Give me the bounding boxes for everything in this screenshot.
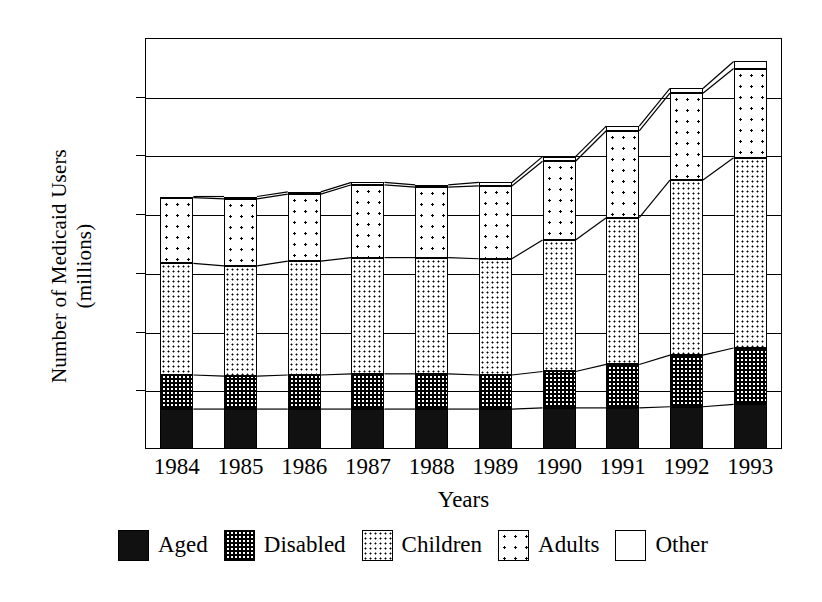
bar-segment-1992-aged bbox=[670, 407, 703, 449]
solid-black-swatch bbox=[118, 530, 149, 561]
bar-segment-1993-disabled bbox=[734, 348, 767, 404]
y-tick-mark-25 bbox=[136, 155, 145, 156]
bar-segment-1991-other bbox=[606, 126, 639, 131]
bar-segment-1992-children bbox=[670, 180, 703, 355]
bar-segment-1993-adults bbox=[734, 69, 767, 158]
x-tick-label-1985: 1985 bbox=[209, 453, 273, 481]
bar-1992[interactable] bbox=[670, 38, 703, 449]
bar-segment-1991-disabled bbox=[606, 364, 639, 407]
bar-1991[interactable] bbox=[606, 38, 639, 449]
medicaid-users-stacked-bar-chart: Number of Medicaid Users(millions) 05101… bbox=[0, 0, 822, 602]
bar-segment-1987-adults bbox=[351, 185, 384, 258]
bar-segment-1986-other bbox=[288, 192, 321, 194]
bar-segment-1989-aged bbox=[479, 409, 512, 449]
legend-label-children: Children bbox=[402, 532, 483, 558]
bars-layer bbox=[145, 38, 782, 449]
bar-segment-1988-other bbox=[415, 185, 448, 187]
bar-segment-1991-adults bbox=[606, 131, 639, 218]
bar-segment-1985-other bbox=[224, 197, 257, 199]
bar-1993[interactable] bbox=[734, 38, 767, 449]
bar-segment-1992-other bbox=[670, 88, 703, 93]
legend-label-adults: Adults bbox=[538, 532, 599, 558]
bar-1990[interactable] bbox=[543, 38, 576, 449]
checkerboard-swatch bbox=[224, 530, 255, 561]
x-tick-label-1993: 1993 bbox=[718, 453, 782, 481]
bar-segment-1985-adults bbox=[224, 199, 257, 266]
bar-segment-1985-aged bbox=[224, 409, 257, 449]
y-axis-title-line2: (millions) bbox=[72, 224, 96, 309]
x-tick-label-1984: 1984 bbox=[145, 453, 209, 481]
bar-segment-1993-aged bbox=[734, 404, 767, 449]
x-tick-label-1986: 1986 bbox=[272, 453, 336, 481]
x-tick-label-1988: 1988 bbox=[400, 453, 464, 481]
x-tick-label-1987: 1987 bbox=[336, 453, 400, 481]
sparse-dots-swatch bbox=[498, 530, 529, 561]
legend-item-aged[interactable]: Aged bbox=[118, 530, 208, 561]
legend-item-children[interactable]: Children bbox=[362, 530, 483, 561]
bar-segment-1992-disabled bbox=[670, 355, 703, 407]
bar-segment-1990-children bbox=[543, 240, 576, 372]
bar-segment-1986-aged bbox=[288, 409, 321, 449]
bar-1985[interactable] bbox=[224, 38, 257, 449]
legend-item-other[interactable]: Other bbox=[615, 530, 707, 561]
legend-item-disabled[interactable]: Disabled bbox=[224, 530, 346, 561]
bar-1987[interactable] bbox=[351, 38, 384, 449]
legend-item-adults[interactable]: Adults bbox=[498, 530, 599, 561]
bar-segment-1988-aged bbox=[415, 409, 448, 449]
bar-segment-1984-other bbox=[160, 197, 193, 199]
bar-segment-1986-children bbox=[288, 261, 321, 375]
bar-segment-1986-disabled bbox=[288, 375, 321, 409]
x-axis-title: Years bbox=[145, 487, 782, 513]
y-tick-mark-20 bbox=[136, 214, 145, 215]
bar-segment-1989-children bbox=[479, 259, 512, 375]
bar-segment-1990-disabled bbox=[543, 371, 576, 407]
y-axis-title-line1: Number of Medicaid Users bbox=[47, 149, 71, 383]
y-tick-mark-15 bbox=[136, 273, 145, 274]
x-tick-label-1990: 1990 bbox=[527, 453, 591, 481]
bar-1988[interactable] bbox=[415, 38, 448, 449]
x-tick-label-1989: 1989 bbox=[464, 453, 528, 481]
bar-segment-1991-children bbox=[606, 218, 639, 365]
bar-segment-1992-adults bbox=[670, 93, 703, 180]
y-tick-mark-10 bbox=[136, 332, 145, 333]
bar-segment-1987-aged bbox=[351, 409, 384, 449]
bar-segment-1988-adults bbox=[415, 187, 448, 257]
bar-segment-1989-adults bbox=[479, 186, 512, 259]
dense-dots-swatch bbox=[362, 530, 393, 561]
bar-segment-1987-other bbox=[351, 182, 384, 184]
bar-segment-1990-aged bbox=[543, 408, 576, 449]
bar-segment-1987-disabled bbox=[351, 374, 384, 409]
bar-1984[interactable] bbox=[160, 38, 193, 449]
bar-1989[interactable] bbox=[479, 38, 512, 449]
x-axis-tick-labels: 1984198519861987198819891990199119921993 bbox=[145, 453, 782, 483]
bar-segment-1985-children bbox=[224, 266, 257, 376]
bar-segment-1993-other bbox=[734, 61, 767, 68]
bar-segment-1984-children bbox=[160, 263, 193, 375]
bar-segment-1987-children bbox=[351, 258, 384, 374]
x-tick-label-1991: 1991 bbox=[591, 453, 655, 481]
bar-segment-1985-disabled bbox=[224, 376, 257, 409]
white-empty-swatch bbox=[615, 530, 646, 561]
bar-segment-1986-adults bbox=[288, 194, 321, 261]
y-tick-mark-30 bbox=[136, 97, 145, 98]
bar-segment-1990-adults bbox=[543, 161, 576, 240]
bar-segment-1989-other bbox=[479, 182, 512, 186]
bar-segment-1988-disabled bbox=[415, 374, 448, 409]
legend-label-other: Other bbox=[655, 532, 707, 558]
legend-label-disabled: Disabled bbox=[264, 532, 346, 558]
bar-segment-1984-disabled bbox=[160, 375, 193, 409]
legend-label-aged: Aged bbox=[158, 532, 208, 558]
bar-segment-1988-children bbox=[415, 258, 448, 374]
chart-legend: AgedDisabledChildrenAdultsOther bbox=[118, 528, 758, 562]
bar-segment-1984-aged bbox=[160, 409, 193, 449]
bar-segment-1991-aged bbox=[606, 408, 639, 449]
y-tick-mark-5 bbox=[136, 390, 145, 391]
bar-segment-1989-disabled bbox=[479, 375, 512, 409]
bar-segment-1990-other bbox=[543, 157, 576, 162]
bar-1986[interactable] bbox=[288, 38, 321, 449]
bar-segment-1993-children bbox=[734, 158, 767, 348]
y-axis-title: Number of Medicaid Users(millions) bbox=[47, 76, 97, 456]
bar-segment-1984-adults bbox=[160, 198, 193, 264]
x-tick-label-1992: 1992 bbox=[655, 453, 719, 481]
